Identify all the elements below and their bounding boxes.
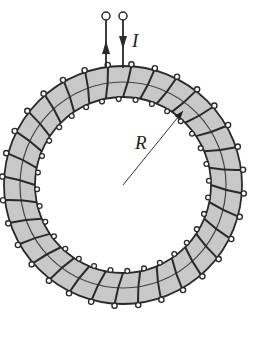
winding-loop-inner: [125, 268, 130, 273]
winding-loop-inner: [43, 219, 48, 224]
winding-loop-outer: [60, 77, 65, 82]
winding-loop-outer: [89, 299, 94, 304]
toroid-diagram: R I: [0, 0, 253, 337]
winding-loop-inner: [202, 211, 207, 216]
radius-arrow: [123, 111, 183, 185]
winding-loop-inner: [37, 204, 42, 209]
winding-loop-inner: [178, 119, 183, 124]
winding-loop-outer: [235, 144, 240, 149]
winding-loop-outer: [29, 262, 34, 267]
winding-loop-outer: [240, 167, 245, 172]
winding-loop-outer: [25, 108, 30, 113]
winding-loop-inner: [190, 131, 195, 136]
winding-loop-outer: [159, 297, 164, 302]
winding-loop-outer: [174, 74, 179, 79]
winding-loop-outer: [4, 151, 9, 156]
winding-loop-outer: [112, 303, 117, 308]
winding-loop-outer: [46, 278, 51, 283]
winding-loop-outer: [216, 256, 221, 261]
winding-loop-inner: [52, 234, 57, 239]
winding-loop-outer: [41, 91, 46, 96]
winding-loop-outer: [82, 68, 87, 73]
winding-loop-inner: [172, 252, 177, 257]
winding-loop-inner: [149, 102, 154, 107]
winding-loop-inner: [206, 195, 211, 200]
winding-loop-outer: [0, 198, 5, 203]
winding-loop-outer: [136, 302, 141, 307]
winding-loop-inner: [40, 154, 45, 159]
winding-loop-outer: [212, 103, 217, 108]
winding-loop-inner: [116, 97, 121, 102]
winding-loop-outer: [15, 242, 20, 247]
winding-loop-outer: [225, 122, 230, 127]
terminal-icon: [102, 12, 110, 20]
arrow-down-icon: [119, 36, 127, 49]
winding-loop-inner: [165, 109, 170, 114]
terminal-icon: [119, 12, 127, 20]
winding-loop-inner: [184, 240, 189, 245]
winding-loop-outer: [6, 221, 11, 226]
winding-loop-outer: [0, 174, 5, 179]
winding-loop-outer: [12, 128, 17, 133]
winding-loop-inner: [108, 268, 113, 273]
winding-loop-inner: [133, 98, 138, 103]
winding-loop-outer: [229, 236, 234, 241]
winding-loop-inner: [69, 114, 74, 119]
winding-loop-inner: [57, 125, 62, 130]
winding-loop-inner: [100, 99, 105, 104]
winding-loop-inner: [194, 227, 199, 232]
winding-loop-outer: [237, 214, 242, 219]
winding-loop-outer: [241, 191, 246, 196]
winding-loop-inner: [76, 256, 81, 261]
winding-loop-inner: [35, 187, 40, 192]
winding-loop-inner: [198, 146, 203, 151]
winding-loop-inner: [63, 246, 68, 251]
winding-loop-outer: [180, 287, 185, 292]
current-leads: [102, 12, 127, 68]
winding-loop-inner: [36, 170, 41, 175]
winding-loop-outer: [194, 87, 199, 92]
winding-loop-inner: [84, 105, 89, 110]
winding-loop-outer: [200, 274, 205, 279]
winding-loop-inner: [204, 162, 209, 167]
winding-loop-inner: [142, 266, 147, 271]
radius-label: R: [134, 132, 147, 153]
winding-loop-outer: [66, 291, 71, 296]
current-label: I: [131, 30, 140, 51]
winding-loop-inner: [47, 138, 52, 143]
winding-loop-outer: [129, 62, 134, 67]
winding-loop-outer: [152, 66, 157, 71]
winding-loop-inner: [92, 264, 97, 269]
winding-loop-inner: [206, 178, 211, 183]
winding-loop-inner: [157, 260, 162, 265]
arrow-up-icon: [102, 41, 110, 54]
